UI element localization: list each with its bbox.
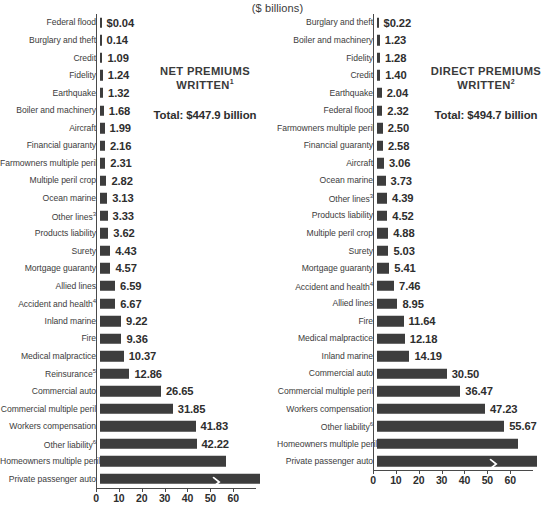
x-axis-tick-label: 60	[505, 474, 516, 486]
x-axis-tick-label: 50	[482, 474, 493, 486]
bar-plot-area: 11.64	[377, 312, 555, 330]
bar-value-label: 2.32	[387, 105, 408, 117]
bar	[100, 404, 173, 415]
bar-value-label: $0.22	[384, 17, 412, 29]
bar	[377, 421, 504, 432]
bar-plot-area: 36.47	[377, 382, 555, 400]
bar-value-label: 1.68	[109, 105, 130, 117]
bar-row: Surety5.03	[277, 242, 555, 260]
bar-value-label: 1.40	[385, 69, 406, 81]
bar-plot-area: 4.52	[377, 207, 555, 225]
bar	[377, 368, 447, 379]
bar-category-label: Private passenger auto	[277, 457, 377, 466]
bar-category-label: Accident and health4	[0, 298, 100, 308]
bar-plot-area: 26.65	[100, 382, 277, 400]
bar-value-label: 55.67	[509, 420, 537, 432]
bar-category-label: Allied lines	[0, 282, 100, 291]
bar-plot-area: 2.16	[100, 137, 277, 155]
bar-category-label: Homeowners multiple peril	[277, 440, 377, 449]
bar-plot-area: 0.14	[100, 32, 277, 50]
x-axis-tick-label: 50	[205, 492, 216, 504]
bar-category-label: Multiple peril crop	[0, 176, 100, 185]
bar-value-label: 12.18	[410, 333, 438, 345]
bar-value-label: 2.31	[110, 157, 131, 169]
bar-category-label: Products liability	[0, 229, 100, 238]
x-axis-line	[373, 470, 533, 471]
bar-plot-area: 4.88	[377, 225, 555, 243]
bar-category-label: Commercial auto	[0, 387, 100, 396]
x-axis-tick-label: 40	[459, 474, 470, 486]
bar-category-label: Surety	[277, 247, 377, 256]
bar-value-label: 2.82	[111, 175, 132, 187]
bar-row: Commercial multiple peril36.47	[277, 382, 555, 400]
bar-plot-area: 30.50	[377, 365, 555, 383]
panel-title-right-line1: DIRECT PREMIUMS	[431, 65, 541, 77]
bar-plot-area	[100, 453, 277, 471]
bar-row: Mortgage guaranty5.41	[277, 260, 555, 278]
bar-category-label: Fire	[0, 334, 100, 343]
panel-title-right: DIRECT PREMIUMS WRITTEN2	[417, 64, 555, 93]
bar-value-label: 36.47	[465, 385, 493, 397]
bar	[100, 333, 121, 344]
bar-category-label: Workers compensation	[0, 422, 100, 431]
bar	[100, 175, 106, 186]
x-axis-right: 0102030405060	[373, 470, 533, 488]
bar-value-label: 1.09	[107, 52, 128, 64]
bar	[377, 298, 397, 309]
bar-value-label: 2.50	[388, 122, 409, 134]
x-axis-tick-label: 30	[159, 492, 170, 504]
bar-row: Ocean marine3.13	[0, 189, 277, 207]
bar	[377, 175, 386, 186]
bar-row: Aircraft3.06	[277, 154, 555, 172]
bar-value-label: 2.16	[110, 140, 131, 152]
bar	[100, 351, 124, 362]
bar-row: Multiple peril crop4.88	[277, 225, 555, 243]
bar-category-label: Inland marine	[277, 352, 377, 361]
units-label: ($ billions)	[0, 2, 555, 14]
panel-title-right-line2: WRITTEN	[457, 79, 510, 91]
bar	[100, 298, 115, 309]
bar-row: Commercial multiple peril31.85	[0, 400, 277, 418]
bar-category-label: Other lines3	[0, 211, 100, 221]
bar-row: Accident and health46.67	[0, 295, 277, 313]
bar	[100, 18, 102, 29]
bar-row: Other lines33.33	[0, 207, 277, 225]
bar-plot-area: 2.50	[377, 119, 555, 137]
panel-title-left-line1: NET PREMIUMS	[160, 65, 250, 77]
bar	[100, 456, 226, 467]
bar-plot-area: 14.19	[377, 347, 555, 365]
bar-row: Commercial auto30.50	[277, 365, 555, 383]
x-axis-tick-label: 0	[93, 492, 99, 504]
x-axis-tick-label: 20	[136, 492, 147, 504]
bar-row: Surety4.43	[0, 242, 277, 260]
bar-category-label: Ocean marine	[0, 194, 100, 203]
bar-value-label: 12.86	[134, 368, 162, 380]
bar	[100, 211, 108, 222]
bar-plot-area: 1.99	[100, 119, 277, 137]
bar-row: Farmowners multiple peril2.31	[0, 154, 277, 172]
bar-category-label: Allied lines	[277, 299, 377, 308]
bar	[100, 281, 115, 292]
bar-plot-area: $0.22	[377, 14, 555, 32]
bar-plot-area: 2.31	[100, 154, 277, 172]
bar-row: Allied lines8.95	[277, 295, 555, 313]
bar-row: Accident and health47.46	[277, 277, 555, 295]
bar-plot-area: 3.13	[100, 189, 277, 207]
bar-category-label: Credit	[277, 71, 377, 80]
bar-value-label: $0.04	[107, 17, 135, 29]
bar	[377, 35, 380, 46]
bar-category-label: Mortgage guaranty	[277, 264, 377, 273]
bar	[100, 193, 107, 204]
bar	[100, 53, 102, 64]
bar-category-label: Private passenger auto	[0, 475, 100, 484]
bar-row: Reinsurance512.86	[0, 365, 277, 383]
bar-value-label: 3.73	[391, 175, 412, 187]
bar-row: Homeowners multiple peril	[277, 435, 555, 453]
bar-plot-area	[100, 470, 277, 488]
panel-title-right-footnote: 2	[511, 79, 515, 86]
panel-title-left: NET PREMIUMS WRITTEN1	[140, 64, 270, 93]
bar	[100, 421, 196, 432]
bar-row: Aircraft1.99	[0, 119, 277, 137]
panel-title-left-line2: WRITTEN	[176, 79, 229, 91]
bar-category-label: Ocean marine	[277, 176, 377, 185]
